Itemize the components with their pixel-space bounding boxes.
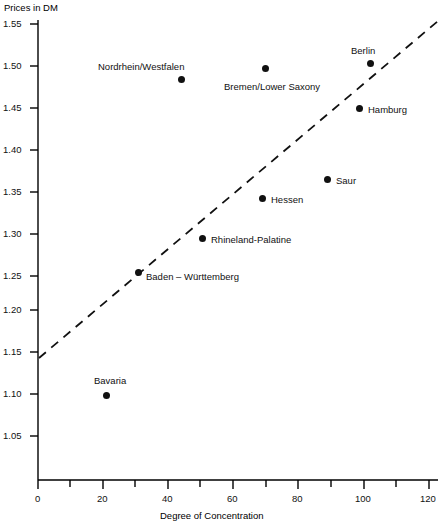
point-label-bavaria: Bavaria	[94, 376, 126, 386]
data-point-baden-wurttemberg[interactable]	[135, 269, 142, 276]
plot-canvas	[0, 0, 445, 523]
x-tick-label: 100	[355, 494, 371, 504]
data-point-hessen[interactable]	[259, 195, 266, 202]
x-tick-label: 20	[97, 494, 108, 504]
y-tick-label: 1.25	[3, 271, 22, 281]
point-label-berlin: Berlin	[351, 46, 375, 56]
data-point-rhineland-palatine[interactable]	[199, 235, 206, 242]
x-tick-label: 40	[162, 494, 173, 504]
data-point-bremen-lower-saxony[interactable]	[262, 65, 269, 72]
x-tick-label: 80	[292, 494, 303, 504]
x-axis-title: Degree of Concentration	[160, 510, 264, 521]
x-tick-label: 0	[35, 494, 40, 504]
point-label-nordrhein-westfalen: Nordrhein/Westfalen	[98, 62, 184, 72]
y-tick-label: 1.55	[3, 19, 22, 29]
y-tick-label: 1.45	[3, 103, 22, 113]
data-point-nordrhein-westfalen[interactable]	[178, 76, 185, 83]
y-tick-label: 1.35	[3, 187, 22, 197]
point-label-bremen-lower-saxony: Bremen/Lower Saxony	[224, 82, 320, 92]
data-point-bavaria[interactable]	[103, 392, 110, 399]
y-tick-label: 1.15	[3, 347, 22, 357]
y-axis-ticks	[30, 24, 38, 436]
y-tick-label: 1.30	[3, 229, 22, 239]
point-label-baden-wurttemberg: Baden – Württemberg	[146, 272, 239, 282]
y-tick-label: 1.10	[3, 389, 22, 399]
data-point-berlin[interactable]	[367, 60, 374, 67]
y-tick-label: 1.40	[3, 145, 22, 155]
point-label-hessen: Hessen	[271, 195, 303, 205]
x-tick-label: 60	[227, 494, 238, 504]
data-point-hamburg[interactable]	[356, 105, 363, 112]
y-tick-label: 1.20	[3, 305, 22, 315]
x-tick-label: 120	[420, 494, 436, 504]
y-tick-label: 1.05	[3, 431, 22, 441]
point-label-hamburg: Hamburg	[368, 105, 407, 115]
x-axis-ticks	[38, 480, 429, 489]
data-point-saur[interactable]	[324, 176, 331, 183]
point-label-rhineland-palatine: Rhineland-Palatine	[211, 235, 291, 245]
point-label-saur: Saur	[336, 176, 356, 186]
y-tick-label: 1.50	[3, 61, 22, 71]
